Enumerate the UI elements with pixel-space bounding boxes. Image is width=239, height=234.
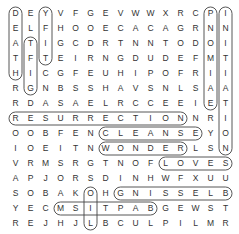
grid-cell[interactable]: N <box>83 126 98 141</box>
grid-cell[interactable]: R <box>203 111 218 126</box>
grid-cell[interactable]: X <box>158 6 173 21</box>
grid-cell[interactable]: E <box>53 51 68 66</box>
grid-cell[interactable]: M <box>203 216 218 231</box>
grid-cell[interactable]: I <box>173 216 188 231</box>
grid-cell[interactable]: T <box>23 36 38 51</box>
grid-cell[interactable]: I <box>218 6 233 21</box>
grid-cell[interactable]: R <box>23 156 38 171</box>
grid-cell[interactable]: M <box>203 51 218 66</box>
grid-cell[interactable]: M <box>38 156 53 171</box>
grid-cell[interactable]: R <box>218 216 233 231</box>
grid-cell[interactable]: D <box>8 6 23 21</box>
grid-cell[interactable]: E <box>83 66 98 81</box>
grid-cell[interactable]: I <box>83 201 98 216</box>
grid-cell[interactable]: A <box>113 81 128 96</box>
grid-cell[interactable]: U <box>203 171 218 186</box>
grid-cell[interactable]: E <box>188 186 203 201</box>
grid-cell[interactable]: I <box>8 141 23 156</box>
grid-cell[interactable]: S <box>53 96 68 111</box>
grid-cell[interactable]: H <box>53 21 68 36</box>
grid-cell[interactable]: O <box>158 111 173 126</box>
grid-cell[interactable]: H <box>143 171 158 186</box>
grid-cell[interactable]: V <box>188 156 203 171</box>
grid-cell[interactable]: I <box>53 141 68 156</box>
grid-cell[interactable]: E <box>128 126 143 141</box>
grid-cell[interactable]: R <box>188 21 203 36</box>
grid-cell[interactable]: S <box>218 156 233 171</box>
grid-cell[interactable]: T <box>38 51 53 66</box>
grid-cell[interactable]: G <box>53 36 68 51</box>
grid-cell[interactable]: C <box>143 21 158 36</box>
grid-cell[interactable]: U <box>128 216 143 231</box>
grid-cell[interactable]: G <box>113 186 128 201</box>
grid-cell[interactable]: T <box>68 141 83 156</box>
grid-cell[interactable]: G <box>83 156 98 171</box>
grid-cell[interactable]: T <box>98 201 113 216</box>
grid-cell[interactable]: F <box>68 6 83 21</box>
grid-cell[interactable]: J <box>38 171 53 186</box>
grid-cell[interactable]: B <box>53 81 68 96</box>
grid-cell[interactable]: A <box>203 81 218 96</box>
grid-cell[interactable]: T <box>218 96 233 111</box>
grid-cell[interactable]: R <box>83 51 98 66</box>
grid-cell[interactable]: N <box>128 36 143 51</box>
grid-cell[interactable]: A <box>128 21 143 36</box>
grid-cell[interactable]: Y <box>8 201 23 216</box>
grid-cell[interactable]: V <box>113 6 128 21</box>
grid-cell[interactable]: E <box>173 96 188 111</box>
grid-cell[interactable]: F <box>53 126 68 141</box>
grid-cell[interactable]: R <box>68 171 83 186</box>
grid-cell[interactable]: O <box>158 66 173 81</box>
grid-cell[interactable]: I <box>218 111 233 126</box>
grid-cell[interactable]: G <box>158 201 173 216</box>
grid-cell[interactable]: D <box>128 51 143 66</box>
grid-cell[interactable]: T <box>98 156 113 171</box>
grid-cell[interactable]: L <box>173 81 188 96</box>
grid-cell[interactable]: B <box>98 216 113 231</box>
grid-cell[interactable]: I <box>143 111 158 126</box>
grid-cell[interactable]: H <box>113 66 128 81</box>
grid-cell[interactable]: W <box>158 171 173 186</box>
grid-cell[interactable]: U <box>143 51 158 66</box>
grid-cell[interactable]: R <box>188 66 203 81</box>
grid-cell[interactable]: F <box>188 51 203 66</box>
grid-cell[interactable]: S <box>83 81 98 96</box>
grid-cell[interactable]: N <box>113 156 128 171</box>
grid-cell[interactable]: H <box>98 186 113 201</box>
grid-cell[interactable]: D <box>158 51 173 66</box>
grid-cell[interactable]: H <box>53 216 68 231</box>
grid-cell[interactable]: S <box>83 171 98 186</box>
grid-cell[interactable]: R <box>8 81 23 96</box>
grid-cell[interactable]: B <box>218 186 233 201</box>
grid-cell[interactable]: N <box>143 36 158 51</box>
grid-cell[interactable]: O <box>83 21 98 36</box>
grid-cell[interactable]: A <box>8 171 23 186</box>
grid-cell[interactable]: E <box>203 156 218 171</box>
grid-cell[interactable]: T <box>113 36 128 51</box>
grid-cell[interactable]: O <box>218 126 233 141</box>
grid-cell[interactable]: B <box>143 201 158 216</box>
grid-cell[interactable]: O <box>8 126 23 141</box>
grid-cell[interactable]: I <box>143 186 158 201</box>
grid-cell[interactable]: C <box>188 6 203 21</box>
grid-cell[interactable]: I <box>23 66 38 81</box>
grid-cell[interactable]: A <box>53 186 68 201</box>
grid-cell[interactable]: S <box>203 141 218 156</box>
grid-cell[interactable]: E <box>158 96 173 111</box>
grid-cell[interactable]: W <box>188 201 203 216</box>
grid-cell[interactable]: H <box>98 81 113 96</box>
grid-cell[interactable]: T <box>218 201 233 216</box>
grid-cell[interactable]: N <box>128 141 143 156</box>
grid-cell[interactable]: L <box>98 96 113 111</box>
grid-cell[interactable]: P <box>203 6 218 21</box>
grid-cell[interactable]: U <box>53 111 68 126</box>
grid-cell[interactable]: L <box>143 216 158 231</box>
grid-cell[interactable]: R <box>83 111 98 126</box>
grid-cell[interactable]: C <box>38 66 53 81</box>
grid-cell[interactable]: N <box>83 141 98 156</box>
grid-cell[interactable]: V <box>53 6 68 21</box>
grid-cell[interactable]: U <box>218 171 233 186</box>
grid-cell[interactable]: L <box>23 21 38 36</box>
grid-cell[interactable]: P <box>158 216 173 231</box>
grid-cell[interactable]: J <box>68 216 83 231</box>
